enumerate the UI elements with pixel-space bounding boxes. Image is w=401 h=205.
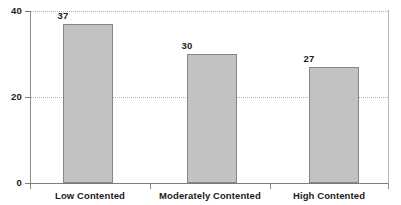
x-axis-category-label-high-contented: High Contented — [270, 190, 388, 202]
y-axis-label-20: 20 — [0, 92, 22, 102]
x-axis-category-label-moderately-contented: Moderately Contented — [150, 190, 270, 202]
y-axis-label-40: 40 — [0, 6, 22, 16]
x-axis-category-label-low-contented: Low Contented — [30, 190, 150, 202]
bar-moderately-contented[interactable] — [187, 54, 237, 183]
bar-value-moderately-contented: 30 — [162, 41, 212, 51]
plot-area — [30, 11, 388, 183]
category-separator-tick-start — [30, 184, 31, 189]
bar-low-contented[interactable] — [63, 24, 113, 183]
bar-value-low-contented: 37 — [38, 11, 88, 21]
bar-chart: 40 20 0 37 30 27 Low Contented Moderatel… — [0, 0, 401, 205]
category-separator-tick-1 — [150, 184, 151, 189]
category-separator-tick-end — [388, 184, 389, 189]
bar-high-contented[interactable] — [309, 67, 359, 183]
chart-frame-right-edge — [388, 10, 389, 184]
category-separator-tick-2 — [270, 184, 271, 189]
bar-value-high-contented: 27 — [284, 54, 334, 64]
x-axis-line — [30, 183, 388, 184]
y-axis-label-0: 0 — [0, 178, 22, 188]
